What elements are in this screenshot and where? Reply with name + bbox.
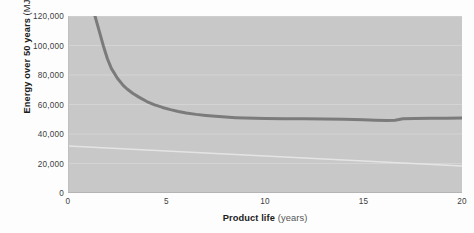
x-axis-title: Product life (years) — [68, 213, 462, 223]
x-axis-tick-labels: 05101520 — [0, 0, 474, 233]
x-tick-label: 0 — [48, 197, 88, 206]
chart-container: Energy over 50 years (MJ) 020,00040,0006… — [0, 0, 474, 233]
x-axis-title-unit: (years) — [275, 213, 307, 223]
x-axis-title-main: Product life — [223, 213, 275, 223]
x-tick-label: 20 — [442, 197, 474, 206]
x-tick-label: 10 — [245, 197, 285, 206]
x-tick-label: 15 — [344, 197, 384, 206]
x-tick-label: 5 — [147, 197, 187, 206]
